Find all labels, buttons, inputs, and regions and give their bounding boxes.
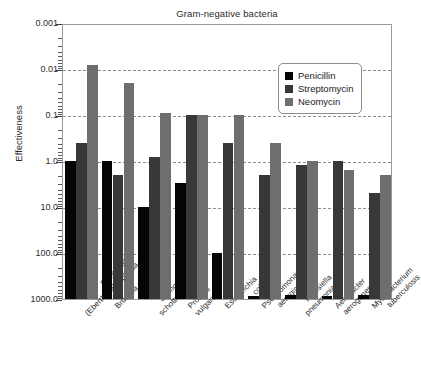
legend-swatch-icon	[285, 98, 293, 106]
bar[interactable]	[197, 115, 207, 299]
bar[interactable]	[65, 161, 75, 299]
bar[interactable]	[234, 115, 244, 299]
bar[interactable]	[212, 253, 222, 299]
bar-group	[65, 25, 97, 299]
legend-item[interactable]: Streptomycin	[285, 82, 353, 95]
y-tick-label: 10.0	[0, 202, 58, 212]
bar[interactable]	[76, 143, 86, 299]
bar[interactable]	[175, 183, 185, 299]
bar[interactable]	[138, 207, 148, 299]
bar[interactable]	[270, 143, 280, 299]
bar[interactable]	[223, 143, 233, 299]
y-tick-label: 0.1	[0, 110, 58, 120]
y-tick-label: 100.0	[0, 248, 58, 258]
legend-swatch-icon	[285, 72, 293, 80]
bar[interactable]	[102, 161, 112, 299]
chart-title: Gram-negative bacteria	[62, 8, 392, 19]
bar[interactable]	[358, 295, 368, 299]
legend-swatch-icon	[285, 85, 293, 93]
bar[interactable]	[186, 115, 196, 299]
legend-label: Streptomycin	[298, 83, 353, 94]
bar[interactable]	[160, 113, 170, 299]
legend-item[interactable]: Penicillin	[285, 69, 353, 82]
legend-label: Penicillin	[298, 70, 336, 81]
bar[interactable]	[248, 296, 258, 299]
y-tick-label: 0.01	[0, 64, 58, 74]
y-tick-label: 1000.0	[0, 294, 58, 304]
bar[interactable]	[149, 157, 159, 299]
bar[interactable]	[285, 295, 295, 299]
bar[interactable]	[296, 165, 306, 299]
bar[interactable]	[113, 175, 123, 299]
y-tick-mark	[56, 300, 62, 301]
bar[interactable]	[369, 193, 379, 299]
bar[interactable]	[333, 161, 343, 299]
bar[interactable]	[87, 65, 97, 299]
bar[interactable]	[307, 161, 317, 299]
bar[interactable]	[124, 83, 134, 299]
bar[interactable]	[259, 175, 269, 299]
bar[interactable]	[322, 296, 332, 299]
gridline	[63, 116, 391, 117]
bar[interactable]	[380, 175, 390, 299]
y-tick-label: 0.001	[0, 18, 58, 28]
legend-item[interactable]: Neomycin	[285, 95, 353, 108]
y-tick-label: 1.0	[0, 156, 58, 166]
legend-label: Neomycin	[298, 96, 340, 107]
bar[interactable]	[344, 170, 354, 299]
chart-legend: PenicillinStreptomycinNeomycin	[278, 63, 362, 114]
